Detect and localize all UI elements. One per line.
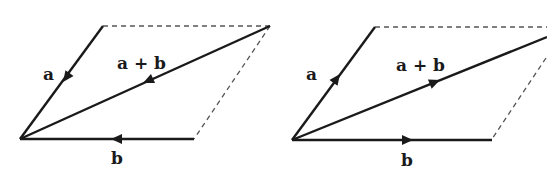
right-dashed-right-edge (492, 58, 546, 139)
right-label-a: a (306, 64, 317, 84)
right-parallelogram: a a + b b (292, 27, 547, 170)
left-parallelogram: a a + b b (20, 26, 270, 168)
right-vector-b-arrow-icon (402, 135, 413, 145)
left-label-a: a (43, 64, 54, 84)
left-vector-sum-arrow-icon (141, 74, 155, 88)
right-label-b: b (401, 150, 413, 170)
right-label-sum: a + b (396, 55, 445, 75)
left-label-b: b (111, 148, 123, 168)
vector-addition-figure: a a + b b a a + b b (0, 0, 547, 175)
left-label-sum: a + b (117, 53, 166, 73)
left-vector-b-arrow-icon (111, 134, 122, 144)
left-vector-a (20, 26, 103, 139)
right-vector-sum-arrow-icon (428, 75, 442, 88)
